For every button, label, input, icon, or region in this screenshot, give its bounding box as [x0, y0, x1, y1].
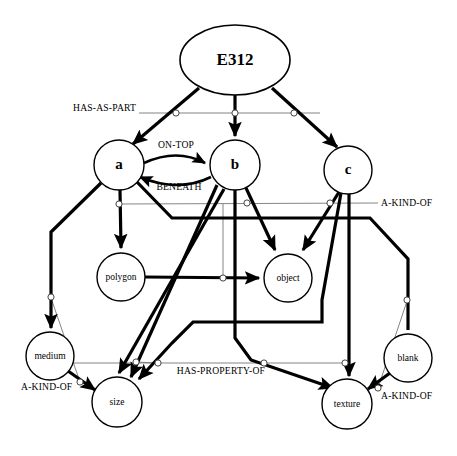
edge-e312-c — [272, 88, 337, 147]
node-label-polygon: polygon — [105, 272, 136, 282]
relation-link-marker — [220, 275, 226, 281]
node-texture[interactable]: texture — [322, 379, 372, 429]
relation-link-marker — [342, 360, 348, 366]
node-medium[interactable]: medium — [26, 332, 74, 380]
relation-label-a-kind-of-left: A-KIND-OF — [21, 381, 72, 392]
relation-link-marker — [232, 110, 238, 116]
relation-label-on-top: ON-TOP — [158, 139, 194, 150]
relation-label-has-property-of: HAS-PROPERTY-OF — [177, 365, 265, 376]
relation-label-has-as-part: HAS-AS-PART — [73, 102, 136, 113]
relation-label-a-kind-of-right: A-KIND-OF — [381, 197, 432, 208]
relation-link-marker — [173, 110, 179, 116]
relation-link-marker — [77, 379, 83, 385]
node-label-medium: medium — [34, 351, 66, 361]
relation-link-marker — [133, 359, 139, 365]
relation-label-beneath: BENEATH — [156, 181, 201, 192]
relation-link-marker — [244, 200, 250, 206]
edge-e312-a — [133, 88, 199, 144]
relation-link-marker — [48, 294, 54, 300]
node-c[interactable]: c — [324, 146, 372, 194]
node-label-b: b — [231, 156, 239, 172]
node-size[interactable]: size — [92, 377, 142, 427]
relation-label-a-kind-of-bottom: A-KIND-OF — [381, 390, 432, 401]
node-object[interactable]: object — [264, 254, 312, 302]
edge-polygon-object — [145, 277, 259, 278]
node-label-texture: texture — [334, 399, 360, 409]
node-b[interactable]: b — [210, 140, 260, 190]
relation-link-marker — [291, 110, 297, 116]
node-blank[interactable]: blank — [384, 334, 432, 382]
node-e312[interactable]: E312 — [180, 25, 290, 95]
node-label-e312: E312 — [217, 50, 254, 69]
relation-link-marker — [327, 200, 333, 206]
node-label-size: size — [110, 397, 125, 407]
relation-link-marker — [155, 360, 161, 366]
node-polygon[interactable]: polygon — [97, 253, 145, 301]
node-label-c: c — [345, 161, 352, 177]
node-label-object: object — [276, 273, 300, 283]
semantic-network-graph: E312abcpolygonobjectmediumblanksizetextu… — [0, 0, 457, 456]
diagram-canvas: E312abcpolygonobjectmediumblanksizetextu… — [0, 0, 457, 456]
edge-a-polygon — [120, 190, 121, 248]
edge-a-medium — [51, 183, 101, 328]
node-label-a: a — [115, 156, 123, 172]
node-a[interactable]: a — [94, 140, 144, 190]
relation-link-marker — [116, 201, 122, 207]
node-label-blank: blank — [397, 353, 418, 363]
edge-a-b-on-top — [144, 156, 205, 164]
relation-link-marker — [404, 297, 410, 303]
thick-edges — [51, 88, 408, 390]
